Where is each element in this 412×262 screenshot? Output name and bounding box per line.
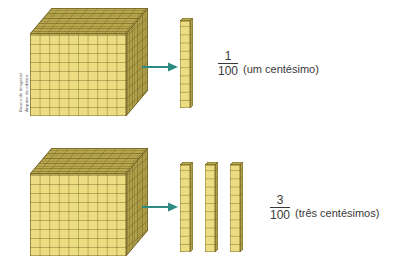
base-ten-cube-row-two	[30, 148, 148, 256]
fraction-group-row-one: 1 100 (um centésimo)	[218, 50, 319, 77]
fraction-caption: (três centésimos)	[295, 207, 379, 221]
fraction-numerator: 3	[277, 194, 284, 207]
base-ten-rod	[230, 162, 243, 252]
cube-graphic	[30, 148, 148, 256]
fraction-three-hundredths: 3 100	[270, 194, 290, 221]
cube-graphic	[30, 8, 148, 116]
base-ten-rod	[180, 162, 193, 252]
arrow-right-row-two	[142, 201, 178, 213]
base-ten-rod	[180, 18, 193, 108]
fraction-group-row-two: 3 100 (três centésimos)	[270, 194, 379, 221]
fraction-denominator: 100	[270, 208, 290, 221]
fraction-denominator: 100	[218, 64, 238, 77]
fraction-caption: (um centésimo)	[243, 63, 319, 77]
arrow-right-row-one	[142, 61, 178, 73]
base-ten-cube-row-one	[30, 8, 148, 116]
fraction-one-hundredth: 1 100	[218, 50, 238, 77]
illustration-stage: Banco de imagens/ Arquivo da editora	[0, 0, 412, 262]
image-credit: Banco de imagens/ Arquivo da editora	[18, 26, 29, 112]
fraction-numerator: 1	[225, 50, 232, 63]
base-ten-rod	[205, 162, 218, 252]
